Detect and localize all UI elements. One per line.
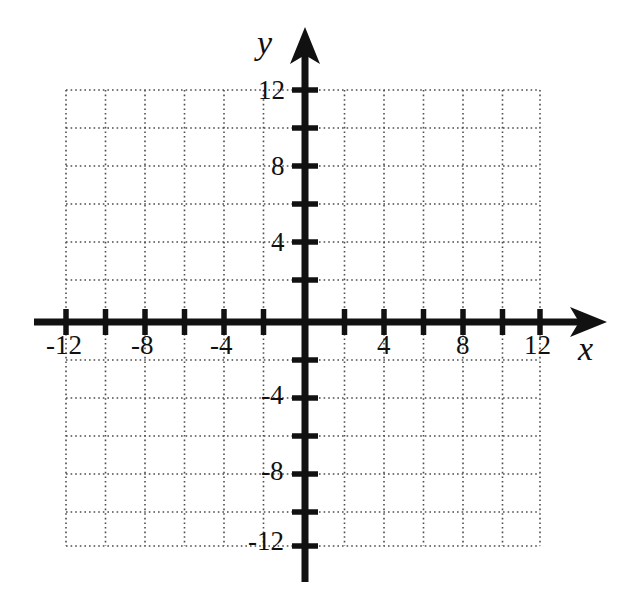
y-tick-label-neg-8: -8 [261,458,284,485]
axis-arrowheads [290,27,607,337]
y-tick-label-neg-4: -4 [261,382,284,409]
y-tick-label-neg-12: -12 [248,528,284,555]
coordinate-plane-figure: -12 -8 -4 4 8 12 12 8 4 -4 -8 -12 y x [0,0,639,594]
axes [34,37,596,582]
x-tick-label-pos-8: 8 [456,332,470,359]
x-tick-label-neg-8: -8 [131,332,154,359]
y-axis-label: y [257,26,272,60]
y-tick-label-pos-8: 8 [271,153,285,180]
y-tick-label-pos-12: 12 [258,77,285,104]
x-tick-label-pos-4: 4 [377,332,391,359]
y-tick-label-pos-4: 4 [271,229,285,256]
coordinate-plane-svg [0,0,639,594]
x-tick-label-neg-4: -4 [210,332,233,359]
x-tick-label-neg-12: -12 [46,332,82,359]
x-tick-label-pos-12: 12 [524,332,551,359]
x-axis-label: x [578,332,593,366]
